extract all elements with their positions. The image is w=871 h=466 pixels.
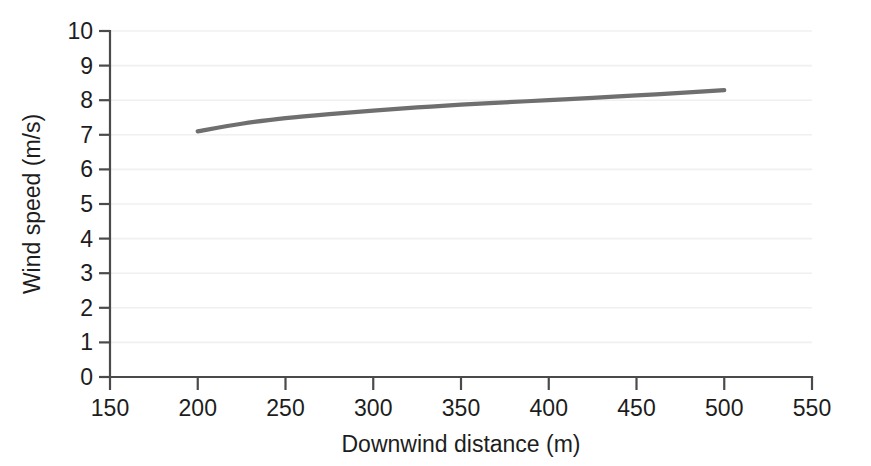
x-tick-label: 200 — [179, 395, 217, 421]
x-axis — [110, 377, 812, 390]
y-tick-label: 6 — [80, 156, 93, 182]
y-tick-label: 8 — [80, 87, 93, 113]
y-tick-label: 5 — [80, 191, 93, 217]
x-tick-label: 150 — [91, 395, 129, 421]
x-tick-label: 300 — [354, 395, 392, 421]
y-tick-label: 3 — [80, 260, 93, 286]
x-tick-labels: 150 200 250 300 350 400 450 500 550 — [91, 395, 831, 421]
y-axis-title: Wind speed (m/s) — [19, 114, 45, 294]
y-tick-label: 9 — [80, 53, 93, 79]
x-tick-label: 450 — [617, 395, 655, 421]
wind-speed-line — [198, 90, 725, 131]
x-tick-label: 400 — [530, 395, 568, 421]
y-tick-label: 2 — [80, 295, 93, 321]
gridlines-horizontal — [110, 31, 812, 342]
y-axis — [99, 31, 110, 377]
x-axis-title: Downwind distance (m) — [341, 431, 580, 457]
y-tick-label: 4 — [80, 226, 93, 252]
data-series-group — [198, 90, 725, 131]
x-tick-label: 250 — [266, 395, 304, 421]
y-tick-label: 10 — [67, 18, 93, 44]
y-tick-label: 0 — [80, 364, 93, 390]
x-tick-label: 350 — [442, 395, 480, 421]
wind-speed-chart-figure: 10 9 8 7 6 5 4 3 2 1 0 150 — [0, 0, 871, 466]
y-tick-label: 1 — [80, 329, 93, 355]
chart-canvas: 10 9 8 7 6 5 4 3 2 1 0 150 — [0, 0, 871, 466]
x-tick-label: 550 — [793, 395, 831, 421]
x-tick-label: 500 — [705, 395, 743, 421]
y-tick-labels: 10 9 8 7 6 5 4 3 2 1 0 — [67, 18, 93, 390]
y-tick-label: 7 — [80, 122, 93, 148]
